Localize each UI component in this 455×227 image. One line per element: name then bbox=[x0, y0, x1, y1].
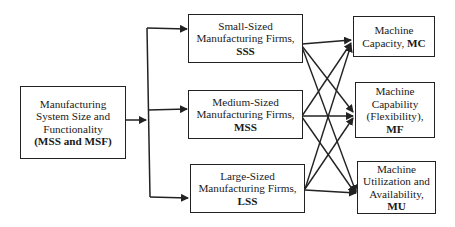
source-box: Manufacturing System Size and Functional… bbox=[20, 86, 126, 159]
outcome-line1: Machine bbox=[377, 163, 416, 176]
firm-line2: Manufacturing Firms, bbox=[196, 108, 294, 121]
firm-line1: Small-Sized bbox=[218, 20, 273, 33]
branch-trunk bbox=[147, 28, 150, 197]
outcome-line2: Capability bbox=[372, 98, 419, 111]
lss-to-mu bbox=[305, 190, 356, 193]
mss-to-mc bbox=[302, 43, 351, 116]
source-abbr: (MSS and MSF) bbox=[34, 135, 112, 148]
source-line2: System Size and bbox=[36, 110, 110, 123]
source-line1: Manufacturing bbox=[40, 98, 106, 111]
firm-box-large: Large-Sized Manufacturing Firms, LSS bbox=[190, 164, 305, 213]
outcome-line3: Availability, bbox=[369, 188, 424, 201]
sss-to-mc bbox=[302, 40, 351, 44]
source-line3: Functionality bbox=[43, 123, 103, 136]
sss-to-mu bbox=[302, 47, 356, 192]
outcome-box-utilization: Machine Utilization and Availability, MU bbox=[357, 161, 436, 214]
outcome-line3: (Flexibility), bbox=[367, 110, 424, 123]
outcome-line2: Capacity, MC bbox=[362, 37, 425, 50]
outcome-line1: Machine bbox=[374, 24, 413, 37]
arrow-to-lss bbox=[150, 197, 188, 198]
lss-to-mc bbox=[305, 45, 351, 189]
firm-abbr: MSS bbox=[234, 121, 257, 134]
firm-box-small: Small-Sized Manufacturing Firms, SSS bbox=[188, 14, 303, 63]
firm-line1: Large-Sized bbox=[220, 170, 274, 183]
firm-line2: Manufacturing Firms, bbox=[196, 32, 294, 45]
firm-line1: Medium-Sized bbox=[212, 96, 279, 109]
firm-abbr: SSS bbox=[236, 45, 255, 58]
outcome-abbr: MC bbox=[407, 37, 426, 49]
outcome-box-capacity: Machine Capacity, MC bbox=[353, 16, 435, 57]
outcome-box-capability: Machine Capability (Flexibility), MF bbox=[355, 82, 435, 138]
firm-abbr: LSS bbox=[238, 195, 258, 208]
firm-box-medium: Medium-Sized Manufacturing Firms, MSS bbox=[188, 90, 303, 139]
outcome-abbr: MU bbox=[387, 200, 406, 213]
outcome-line2: Utilization and bbox=[363, 175, 430, 188]
firm-line2: Manufacturing Firms, bbox=[198, 182, 296, 195]
outcome-line2-text: Capacity, bbox=[362, 37, 404, 49]
lss-to-mf bbox=[305, 118, 353, 189]
outcome-line1: Machine bbox=[375, 85, 414, 98]
arrow-to-mss bbox=[148, 109, 187, 110]
outcome-abbr: MF bbox=[386, 123, 403, 136]
arrow-to-sss bbox=[147, 28, 187, 29]
